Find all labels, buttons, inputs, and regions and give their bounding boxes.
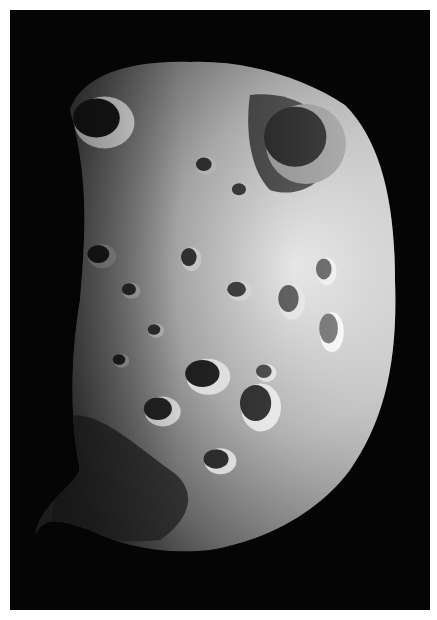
moon-limb-shading: [35, 62, 395, 551]
photo-frame: [10, 10, 430, 610]
moon-photo: [10, 10, 430, 610]
